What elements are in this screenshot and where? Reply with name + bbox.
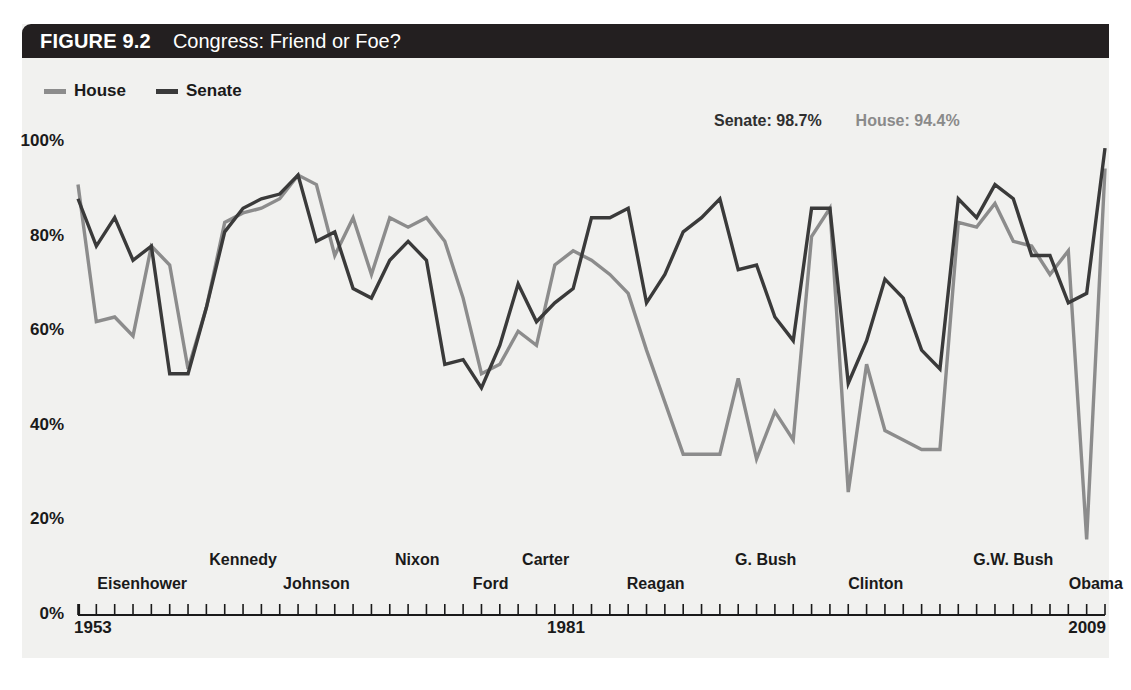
x-axis-year-mid: 1981 — [547, 618, 585, 638]
president-label-carter: Carter — [522, 551, 569, 569]
series-line-senate — [78, 148, 1105, 388]
y-axis-tick-label: 60% — [6, 320, 64, 340]
president-label-nixon: Nixon — [395, 551, 439, 569]
y-axis-tick-label: 20% — [6, 509, 64, 529]
y-axis-tick-label: 100% — [6, 131, 64, 151]
president-label-kennedy: Kennedy — [209, 551, 277, 569]
y-axis-tick-label: 80% — [6, 226, 64, 246]
president-label-johnson: Johnson — [283, 575, 350, 593]
president-label-clinton: Clinton — [848, 575, 903, 593]
president-label-eisenhower: Eisenhower — [97, 575, 187, 593]
president-label-obama: Obama — [1069, 575, 1123, 593]
x-axis-year-end: 2009 — [1068, 618, 1106, 638]
x-axis-year-start: 1953 — [74, 618, 112, 638]
president-label-reagan: Reagan — [627, 575, 685, 593]
president-label-g-bush: G. Bush — [735, 551, 796, 569]
y-axis-tick-label: 40% — [6, 415, 64, 435]
president-label-ford: Ford — [473, 575, 509, 593]
president-label-g-w-bush: G.W. Bush — [973, 551, 1053, 569]
figure-container: FIGURE 9.2 Congress: Friend or Foe? Hous… — [0, 0, 1131, 690]
y-axis-tick-label: 0% — [6, 604, 64, 624]
